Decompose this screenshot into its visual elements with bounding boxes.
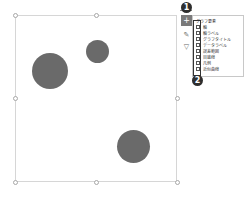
checkbox-column-highlight <box>193 20 201 76</box>
resize-handle-bottom-left[interactable] <box>13 180 18 185</box>
data-bubble-2[interactable] <box>86 40 109 63</box>
chart-elements-button[interactable]: + <box>181 15 192 26</box>
resize-handle-middle-right[interactable] <box>175 96 180 101</box>
menu-item-chart-title[interactable]: グラフタイトル <box>196 36 231 41</box>
data-bubble-3[interactable] <box>117 130 150 163</box>
brush-icon: ✎ <box>184 31 190 39</box>
data-bubble-1[interactable] <box>32 53 68 89</box>
callout-1-badge: 1 <box>181 2 192 13</box>
chart-styles-button[interactable]: ✎ <box>181 29 192 40</box>
plus-icon: + <box>183 16 190 25</box>
callout-2-badge: 2 <box>192 75 203 86</box>
resize-handle-top-left[interactable] <box>13 13 18 18</box>
resize-handle-bottom-right[interactable] <box>175 180 180 185</box>
chart-filters-button[interactable]: ▽ <box>181 41 192 52</box>
resize-handle-middle-left[interactable] <box>13 96 18 101</box>
filter-icon: ▽ <box>184 43 189 51</box>
resize-handle-bottom-center[interactable] <box>94 180 99 185</box>
resize-handle-top-center[interactable] <box>94 13 99 18</box>
